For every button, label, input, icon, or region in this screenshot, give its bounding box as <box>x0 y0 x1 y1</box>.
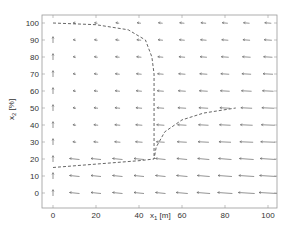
y-axis-label: x2 [%] <box>7 99 17 120</box>
x-tick-label: 60 <box>178 211 187 220</box>
y-tick-label: 10 <box>30 172 39 181</box>
trajectories <box>53 23 236 168</box>
x-tick-label: 80 <box>221 211 230 220</box>
y-tick-label: 20 <box>30 155 39 164</box>
trajectory-lower <box>53 108 236 168</box>
y-tick-label: 40 <box>30 121 39 130</box>
x-tick-label: 40 <box>135 211 144 220</box>
y-tick-label: 100 <box>26 19 40 28</box>
phase-portrait-chart: 020406080100 0102030405060708090100 x1 [… <box>0 0 292 229</box>
y-tick-label: 50 <box>30 104 39 113</box>
x-axis-ticks: 020406080100 <box>51 15 275 220</box>
plot-frame <box>42 15 277 208</box>
x-axis-label: x1 [m] <box>150 211 171 221</box>
x-tick-label: 0 <box>51 211 56 220</box>
y-tick-label: 0 <box>35 189 40 198</box>
y-tick-label: 70 <box>30 70 39 79</box>
x-tick-label: 100 <box>261 211 275 220</box>
vector-field <box>52 22 277 196</box>
y-axis-ticks: 0102030405060708090100 <box>26 19 277 198</box>
y-tick-label: 90 <box>30 36 39 45</box>
x-tick-label: 20 <box>92 211 101 220</box>
y-tick-label: 60 <box>30 87 39 96</box>
y-tick-label: 80 <box>30 53 39 62</box>
y-tick-label: 30 <box>30 138 39 147</box>
